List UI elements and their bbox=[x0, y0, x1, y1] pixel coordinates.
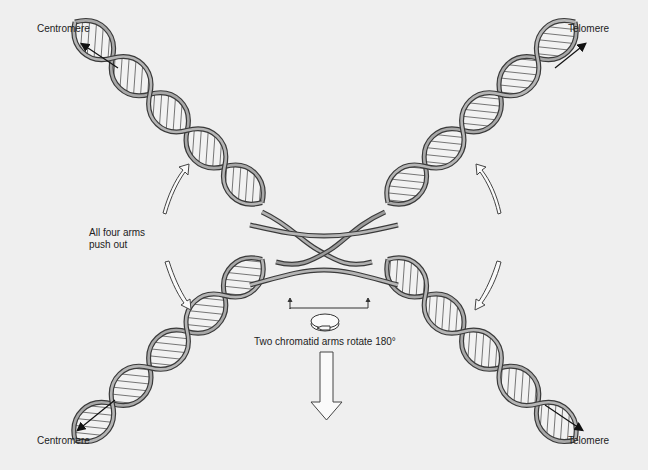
holliday-junction-diagram: Centromere Telomere Centromere Telomere … bbox=[0, 0, 648, 470]
curved-arrow-icon bbox=[475, 261, 501, 310]
helix-lower-right bbox=[377, 248, 587, 452]
push-out-label: All four arms push out bbox=[89, 227, 145, 251]
helix-upper-left bbox=[64, 10, 274, 214]
helix-upper-right bbox=[377, 10, 587, 214]
rotation-bracket bbox=[288, 298, 370, 309]
centromere-label-bottom-left: Centromere bbox=[37, 435, 90, 447]
curved-arrow-icon bbox=[163, 164, 189, 214]
curved-arrow-icon bbox=[476, 164, 501, 214]
helix-lower-left bbox=[64, 248, 274, 452]
rotate-label: Two chromatid arms rotate 180° bbox=[254, 336, 396, 348]
push-out-label-line1: All four arms bbox=[89, 227, 145, 239]
centromere-label-top-left: Centromere bbox=[37, 23, 90, 35]
rotate-icon bbox=[311, 314, 339, 331]
telomere-label-bottom-right: Telomere bbox=[568, 435, 609, 447]
crossover-strands bbox=[250, 212, 398, 285]
telomere-label-top-right: Telomere bbox=[568, 23, 609, 35]
curved-arrow-icon bbox=[165, 261, 191, 310]
down-arrow-icon bbox=[311, 352, 342, 420]
push-out-label-line2: push out bbox=[89, 239, 145, 251]
